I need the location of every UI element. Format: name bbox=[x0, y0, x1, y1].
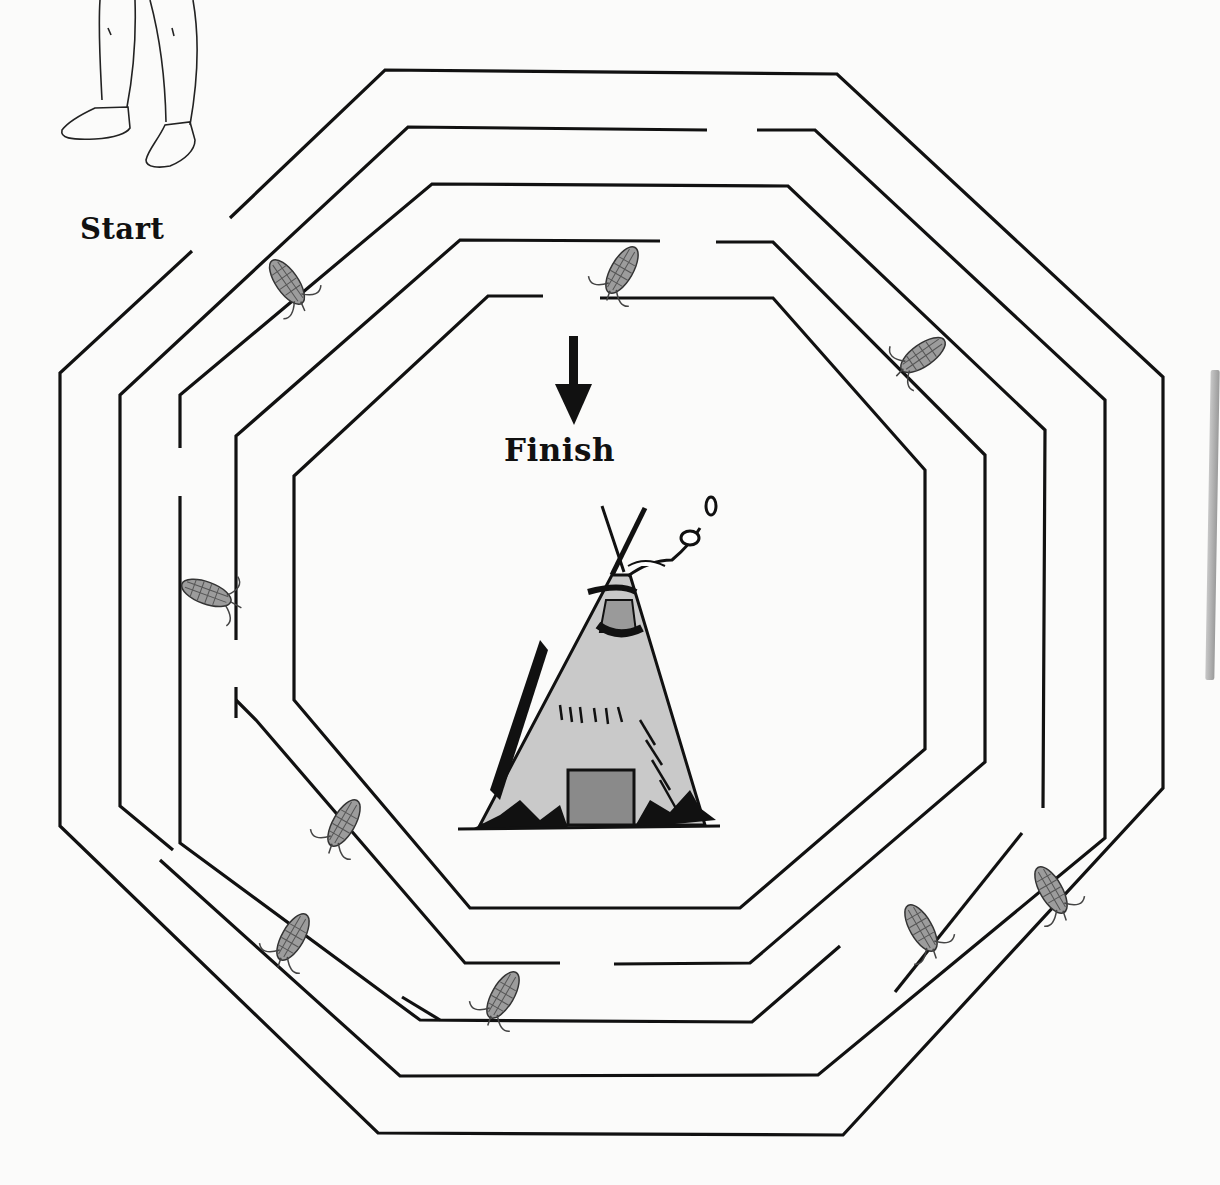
corn-ear-icon bbox=[304, 787, 377, 864]
child-legs-illustration bbox=[62, 0, 198, 167]
finish-label: Finish bbox=[504, 432, 615, 468]
corn-ear-icon bbox=[1017, 854, 1090, 931]
corn-ear-icon bbox=[174, 560, 251, 629]
ring-4-wall-d bbox=[402, 997, 440, 1020]
maze-board bbox=[0, 0, 1220, 1185]
finish-arrow bbox=[555, 336, 592, 425]
corn-ear-icon bbox=[252, 246, 327, 324]
corn-ear-icon bbox=[463, 959, 536, 1036]
corn-ear-icon bbox=[880, 319, 958, 394]
corn-ear-icon bbox=[887, 892, 960, 969]
teepee-illustration bbox=[458, 497, 720, 830]
maze-worksheet: Start Finish bbox=[0, 0, 1220, 1185]
corn-ear-icon bbox=[582, 234, 655, 311]
corn-ear-icon bbox=[253, 901, 326, 978]
start-label: Start bbox=[80, 212, 164, 246]
